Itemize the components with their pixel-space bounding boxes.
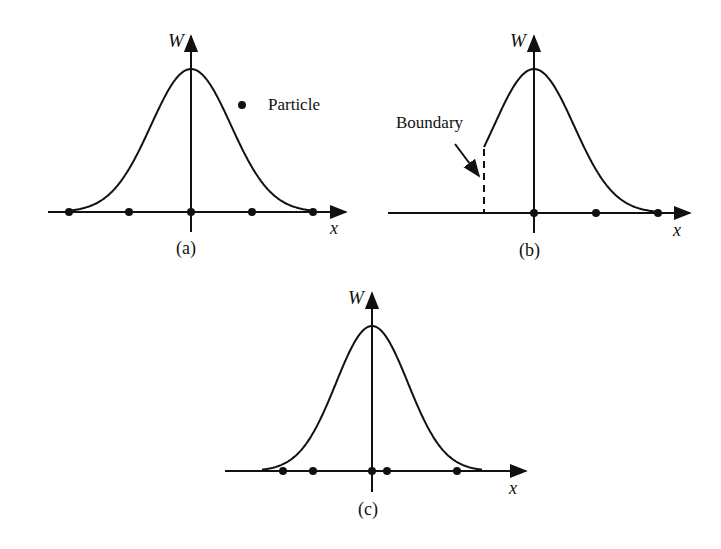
y-axis-label: W (348, 287, 366, 308)
y-axis-label: W (168, 30, 186, 51)
particle-dot (654, 209, 662, 217)
particle-dot (368, 467, 376, 475)
panel-caption: (c) (358, 499, 378, 520)
particle-dot (453, 467, 461, 475)
x-axis-label: x (329, 218, 338, 238)
kernel-curve-truncated (484, 69, 655, 212)
y-axis-label: W (510, 30, 528, 51)
panel-b: Boundary W x (b) (388, 30, 690, 261)
boundary-arrow (455, 144, 479, 176)
x-axis-label: x (672, 220, 681, 240)
particle-dot (248, 208, 256, 216)
particle-dot (187, 208, 195, 216)
particle-dot (125, 208, 133, 216)
particle-dot (530, 209, 538, 217)
panel-a: W x (a) Particle (48, 30, 346, 259)
particle-dot (309, 208, 317, 216)
smoothing-kernel-figure: W x (a) Particle Boundary W x (b) W x (c… (0, 0, 721, 549)
particle-dot (592, 209, 600, 217)
legend-label: Particle (268, 95, 320, 114)
particle-dot (65, 208, 73, 216)
boundary-label: Boundary (396, 113, 464, 132)
panel-c: W x (c) (225, 287, 526, 520)
x-axis-label: x (508, 478, 517, 498)
particle-dot (279, 467, 287, 475)
particle-dot (309, 467, 317, 475)
panel-caption: (b) (519, 240, 540, 261)
panel-caption: (a) (176, 238, 196, 259)
particle-legend-icon (238, 101, 246, 109)
particle-dot (383, 467, 391, 475)
